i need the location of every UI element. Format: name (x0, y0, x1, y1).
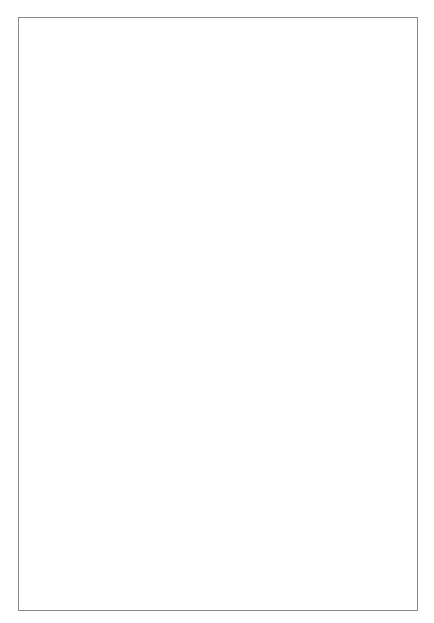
vector-group-table (18, 17, 418, 611)
